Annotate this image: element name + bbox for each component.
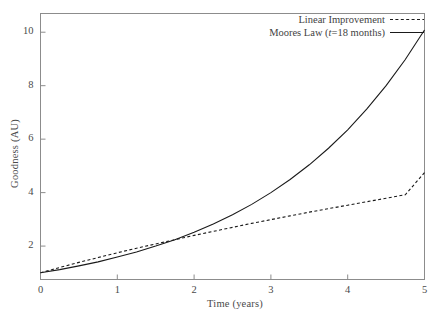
y-tick-label: 4 [10,186,34,197]
y-tick-label: 2 [10,239,34,250]
plot-canvas [0,0,436,317]
legend-entry-linear-improvement: Linear Improvement [298,14,424,25]
legend-label-moores-law: Moores Law (t=18 months) [269,27,385,38]
legend-label-suffix: =18 months) [332,27,385,38]
x-tick-label: 1 [105,284,129,295]
legend-entry-moores-law: Moores Law (t=18 months) [269,27,424,38]
legend-label-prefix: Moores Law ( [269,27,328,38]
x-tick-label: 4 [336,284,360,295]
legend-sample-dashed [390,15,424,24]
chart-figure: Goodness (AU) Time (years) 246810 012345… [0,0,436,317]
series-line-linear-improvement [41,173,425,273]
legend-label-linear-improvement: Linear Improvement [298,14,385,25]
y-tick-label: 8 [10,79,34,90]
x-tick-label: 2 [182,284,206,295]
y-tick-marks [41,32,46,246]
x-tick-label: 0 [29,284,53,295]
plot-frame [41,14,425,280]
x-tick-label: 3 [259,284,283,295]
x-tick-label: 5 [413,284,436,295]
y-tick-label: 10 [10,25,34,36]
y-tick-label: 6 [10,132,34,143]
series-line-moores-law [41,30,425,273]
legend-sample-solid [390,28,424,37]
x-tick-marks [41,275,425,280]
x-axis-label: Time (years) [140,298,330,309]
